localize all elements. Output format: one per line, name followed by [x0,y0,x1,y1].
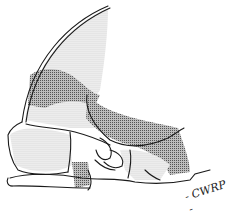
hatched-patch-lower [72,162,90,188]
anatomical-illustration [0,0,234,211]
lower-stippled-region [10,129,72,172]
